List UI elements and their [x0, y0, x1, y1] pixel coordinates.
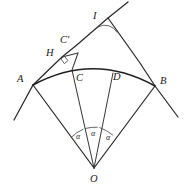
geometry-figure: I C' H A C D B O α α α	[0, 0, 187, 193]
point-label-D: D	[113, 72, 121, 83]
radius-O-to-D	[94, 73, 113, 168]
angle-label-alpha-right: α	[106, 134, 110, 142]
point-label-H: H	[46, 48, 54, 59]
radius-OB	[94, 86, 155, 168]
point-label-C: C	[76, 73, 83, 84]
point-label-O: O	[90, 174, 98, 185]
arc-A-to-B	[33, 69, 155, 86]
point-label-I: I	[93, 11, 97, 22]
point-label-C-prime: C'	[60, 35, 69, 46]
angle-label-alpha-left: α	[76, 133, 80, 141]
ray-lower-left-to-upper-right	[14, 2, 128, 120]
point-label-A: A	[17, 74, 23, 85]
angle-label-alpha-middle: α	[91, 130, 95, 138]
geometry-canvas	[0, 0, 187, 193]
point-label-B: B	[160, 76, 166, 87]
